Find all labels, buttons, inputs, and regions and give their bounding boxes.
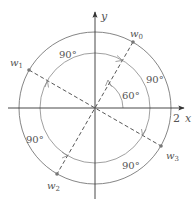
x-tick-label: 2 bbox=[173, 112, 180, 125]
label-w2: w2 bbox=[47, 180, 60, 193]
point-w2 bbox=[55, 172, 59, 176]
label-w3: w3 bbox=[166, 150, 179, 163]
angle-label-90-left: 90° bbox=[26, 134, 44, 145]
label-w1: w1 bbox=[10, 57, 23, 70]
angle-arc-60-arrow-icon bbox=[106, 80, 112, 87]
arrow-icon-inner-w3 bbox=[142, 129, 147, 136]
y-axis-label: y bbox=[100, 10, 108, 23]
angle-label-90-bottom: 90° bbox=[122, 160, 140, 171]
angle-arc-60 bbox=[109, 84, 123, 108]
angle-label-60: 60° bbox=[122, 90, 140, 101]
point-w1 bbox=[27, 68, 31, 72]
point-w3 bbox=[159, 144, 163, 148]
point-w0 bbox=[131, 40, 135, 44]
angle-label-90-right: 90° bbox=[146, 74, 164, 85]
label-w0: w0 bbox=[130, 28, 143, 41]
angle-label-90-top: 90° bbox=[59, 49, 77, 60]
x-axis-label: x bbox=[185, 112, 192, 125]
complex-rotation-diagram: y x 2 w0 w1 w2 w3 60° 90° 90° 90° 90° bbox=[0, 0, 192, 202]
